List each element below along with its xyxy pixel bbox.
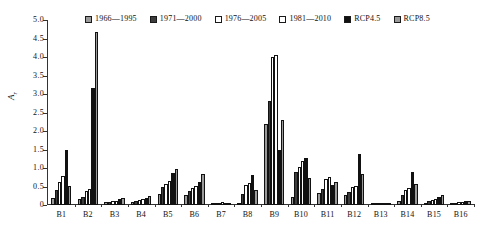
x-axis-tick <box>261 204 262 207</box>
x-axis-tick <box>341 204 342 207</box>
x-axis-tick <box>75 204 76 207</box>
y-axis-tick <box>43 76 47 77</box>
y-axis-tick <box>43 57 47 58</box>
x-axis-tick <box>234 204 235 207</box>
x-axis-tick <box>474 204 475 207</box>
y-axis-tick <box>43 94 47 95</box>
x-axis-tick-label: B11 <box>321 210 335 219</box>
x-axis-tick <box>128 204 129 207</box>
x-axis-tick-label: B10 <box>294 210 308 219</box>
bar[interactable] <box>201 174 204 205</box>
y-axis-tick <box>43 150 47 151</box>
bar-chart: 1966—19951971—20001976—20051981—2010RCP4… <box>0 0 482 242</box>
bars-layer <box>48 20 474 205</box>
x-axis-tick-labels: B1B2B3B4B5B6B7B8B9B10B11B12B13B14B15B16 <box>48 208 474 222</box>
bar-group <box>317 20 337 205</box>
bar[interactable] <box>414 184 417 205</box>
x-axis-tick <box>368 204 369 207</box>
bar[interactable] <box>388 203 391 205</box>
x-axis-tick-label: B12 <box>347 210 361 219</box>
bar-group <box>450 20 470 205</box>
x-axis-tick <box>447 204 448 207</box>
bar-group <box>158 20 178 205</box>
x-axis-tick <box>421 204 422 207</box>
x-axis-tick <box>208 204 209 207</box>
bar-group <box>104 20 124 205</box>
bar[interactable] <box>148 196 151 205</box>
x-axis-tick-label: B8 <box>243 210 253 219</box>
x-axis-tick <box>155 204 156 207</box>
y-axis-tick <box>43 39 47 40</box>
x-axis-tick <box>394 204 395 207</box>
y-axis-tick-labels: 00.51.01.52.02.53.03.54.04.55.0 <box>18 18 44 205</box>
bar[interactable] <box>95 32 98 205</box>
bar[interactable] <box>308 178 311 205</box>
y-axis-tick <box>43 168 47 169</box>
x-axis-tick <box>101 204 102 207</box>
bar[interactable] <box>281 120 284 205</box>
y-axis-tick <box>43 131 47 132</box>
x-axis-tick <box>314 204 315 207</box>
x-axis-tick-label: B9 <box>269 210 279 219</box>
plot-area: Ar 00.51.01.52.02.53.03.54.04.55.0 B1B2B… <box>0 0 482 242</box>
y-axis-tick <box>43 187 47 188</box>
x-axis-tick-label: B16 <box>454 210 468 219</box>
bar-group <box>344 20 364 205</box>
x-axis-tick-label: B3 <box>110 210 120 219</box>
x-axis-tick-label: B14 <box>400 210 414 219</box>
x-axis-tick <box>288 204 289 207</box>
bar-group <box>184 20 204 205</box>
bar-group <box>237 20 257 205</box>
y-axis-tick <box>43 20 47 21</box>
bar[interactable] <box>68 186 71 205</box>
x-axis-tick-label: B5 <box>163 210 173 219</box>
x-axis-tick <box>181 204 182 207</box>
bar[interactable] <box>361 174 364 205</box>
bar[interactable] <box>121 198 124 205</box>
bar-group <box>397 20 417 205</box>
y-axis-tick <box>43 205 47 206</box>
y-axis-title: Ar <box>6 92 18 100</box>
bar-group <box>371 20 391 205</box>
bar[interactable] <box>467 201 470 205</box>
bar-group <box>51 20 71 205</box>
x-axis-tick-label: B2 <box>83 210 93 219</box>
x-axis-tick-label: B4 <box>136 210 146 219</box>
bar[interactable] <box>334 182 337 205</box>
x-axis-tick-label: B15 <box>427 210 441 219</box>
bar-group <box>78 20 98 205</box>
x-axis-tick-label: B7 <box>216 210 226 219</box>
bar[interactable] <box>175 169 178 205</box>
bar[interactable] <box>254 190 257 205</box>
bar-group <box>211 20 231 205</box>
y-axis-tick <box>43 113 47 114</box>
x-axis-tick-label: B6 <box>190 210 200 219</box>
bar[interactable] <box>441 195 444 205</box>
bar-group <box>131 20 151 205</box>
x-axis-tick-label: B1 <box>56 210 66 219</box>
bar-group <box>291 20 311 205</box>
bar[interactable] <box>228 203 231 205</box>
x-axis-tick-label: B13 <box>374 210 388 219</box>
bar-group <box>264 20 284 205</box>
bar-group <box>424 20 444 205</box>
